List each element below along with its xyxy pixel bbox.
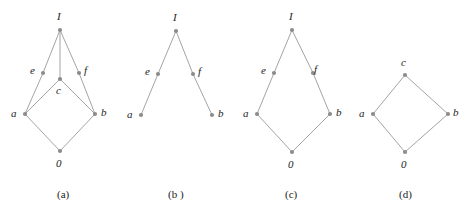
node-label-c-b: b [336,107,342,118]
hasse-diagram-figure: Iecfab0(a)Iefab(b )Iefab0(c)cab0(d) [0,0,461,217]
node-d-b [446,112,450,116]
node-label-c-e: e [261,65,266,76]
edge-b-b-f [193,74,212,115]
caption-d: (d) [399,189,412,200]
edge-b-a-e [141,74,158,115]
edge-c-b-f [313,73,330,114]
edge-a-b-c [60,79,95,114]
node-label-a-f: f [84,65,87,76]
node-label-a-e: e [30,65,35,76]
node-label-d-a: a [359,108,365,119]
node-label-b-I: I [173,12,177,23]
node-label-b-b: b [218,108,224,119]
node-a-f [77,71,81,75]
node-label-a-I: I [57,11,61,22]
node-label-c-a: a [243,108,249,119]
edge-a-a-e [25,73,43,114]
edge-d-a-c [373,75,405,114]
node-b-b [210,113,214,117]
diagram-b-edges [141,31,212,115]
node-d-0 [403,150,407,154]
node-label-a-b: b [101,107,107,118]
node-a-e [41,71,45,75]
node-b-f [191,72,195,76]
node-a-I [58,28,62,32]
node-b-a [139,113,143,117]
caption-c: (c) [285,189,297,200]
node-a-a [23,112,27,116]
diagram-d-edges [373,75,448,152]
node-label-d-0: 0 [401,159,407,170]
node-c-0 [290,150,294,154]
caption-a: (a) [57,189,69,200]
node-label-c-I: I [289,11,293,22]
node-label-b-a: a [127,109,133,120]
node-label-a-0: 0 [56,158,62,169]
node-label-b-f: f [198,66,201,77]
edge-a-a-c [25,79,60,114]
node-b-I [174,29,178,33]
node-a-c [58,77,62,81]
node-c-I [290,28,294,32]
diagram-c-edges [257,30,330,152]
edge-a-e-I [43,30,60,73]
diagram-canvas [0,0,461,217]
node-label-d-b: b [453,107,459,118]
edge-a-b-f [79,73,95,114]
node-c-b [328,112,332,116]
edge-c-e-I [274,30,292,73]
edge-d-0-b [405,114,448,152]
edge-c-a-e [257,73,274,114]
node-label-b-e: e [145,66,150,77]
diagram-d-nodes [371,73,450,154]
diagram-b-nodes [139,29,214,117]
edges-layer [25,30,448,152]
edge-c-0-b [292,114,330,152]
nodes-layer [23,28,450,154]
node-a-b [93,112,97,116]
edge-c-f-I [292,30,313,73]
node-label-c-f: f [314,64,317,75]
node-label-a-c: c [56,85,61,96]
edge-b-e-I [158,31,176,74]
node-a-0 [58,149,62,153]
node-label-d-c: c [401,57,406,68]
edge-b-f-I [176,31,193,74]
edge-a-a-0 [25,114,60,151]
edge-d-b-c [405,75,448,114]
node-label-c-0: 0 [288,159,294,170]
node-d-c [403,73,407,77]
caption-b: (b ) [168,189,184,200]
edge-d-0-a [373,114,405,152]
edge-a-b-0 [60,114,95,151]
node-c-e [272,71,276,75]
node-d-a [371,112,375,116]
node-c-a [255,112,259,116]
edge-c-0-a [257,114,292,152]
node-label-a-a: a [11,108,17,119]
node-b-e [156,72,160,76]
edge-a-f-I [60,30,79,73]
